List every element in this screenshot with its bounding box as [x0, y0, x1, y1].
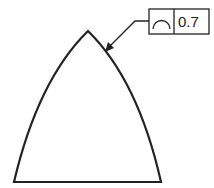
feature-control-frame: 0.7 — [149, 9, 209, 34]
leader-line — [109, 21, 149, 47]
diagram-canvas: 0.7 — [0, 0, 214, 188]
profile-shape — [14, 31, 161, 182]
tolerance-value: 0.7 — [178, 13, 199, 30]
